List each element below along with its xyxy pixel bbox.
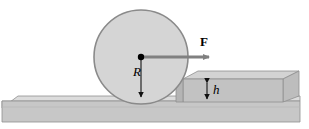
- diagram-canvas: [0, 0, 309, 129]
- force-label: F: [200, 35, 208, 48]
- radius-label: R: [133, 65, 141, 78]
- step-front-face: [183, 79, 283, 102]
- lower-slab-front-face: [2, 101, 300, 122]
- wheel-center-dot: [138, 54, 144, 60]
- step-height-label: h: [213, 83, 220, 96]
- upper-step-block: [176, 71, 299, 102]
- physics-diagram-wheel-over-step: F R h: [0, 0, 309, 129]
- step-top-face: [183, 71, 299, 79]
